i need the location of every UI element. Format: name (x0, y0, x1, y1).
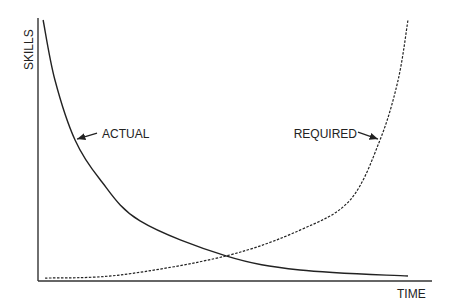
x-axis-label: TIME (397, 287, 426, 301)
annotation-arrow-actual (77, 133, 97, 139)
annotation-label-required: REQUIRED (294, 127, 358, 141)
annotation-label-actual: ACTUAL (102, 127, 150, 141)
chart: SKILLS TIME ACTUALREQUIRED (0, 0, 450, 306)
series-line-actual (43, 20, 408, 276)
series-line-required (45, 20, 408, 278)
annotation-arrow-required (358, 132, 378, 139)
y-axis-label: SKILLS (22, 29, 36, 70)
